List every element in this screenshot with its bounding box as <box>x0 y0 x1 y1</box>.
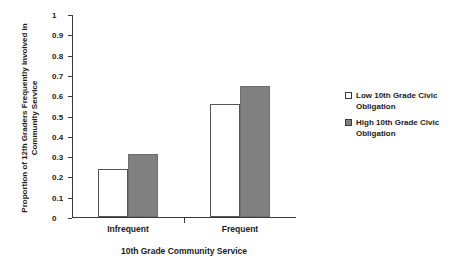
y-tick <box>68 56 72 57</box>
bar-infrequent-low <box>98 169 128 217</box>
y-tick <box>68 198 72 199</box>
y-tick <box>68 218 72 219</box>
y-tick-label: 0.1 <box>52 193 62 202</box>
filled-square-icon <box>345 119 352 126</box>
x-tick-label-frequent: Frequent <box>222 224 258 234</box>
bar-infrequent-high <box>128 154 158 217</box>
legend-label-low: Low 10th Grade Civic Obligation <box>356 91 437 112</box>
y-tick-label: 0.4 <box>52 132 62 141</box>
bar-chart: Proportion of 12th Graders Frequently In… <box>0 0 467 269</box>
y-tick <box>68 35 72 36</box>
y-tick <box>68 96 72 97</box>
legend-label-low-line1: Low 10th Grade Civic <box>356 91 437 100</box>
legend-item-high: High 10th Grade Civic Obligation <box>345 118 465 139</box>
y-tick <box>68 117 72 118</box>
x-tick-label-infrequent: Infrequent <box>107 224 149 234</box>
y-tick-label: 0.3 <box>52 153 62 162</box>
y-tick-label: 0.9 <box>52 31 62 40</box>
legend: Low 10th Grade Civic Obligation High 10t… <box>345 91 465 145</box>
x-group-separator-tick <box>184 218 185 223</box>
legend-label-high-line1: High 10th Grade Civic <box>356 118 439 127</box>
legend-label-low-line2: Obligation <box>356 102 396 111</box>
y-axis-title: Proportion of 12th Graders Frequently In… <box>20 18 50 218</box>
y-tick-label: 1 <box>52 11 62 20</box>
legend-label-high-line2: Obligation <box>356 129 396 138</box>
y-tick-label: 0.8 <box>52 51 62 60</box>
x-axis-title: 10th Grade Community Service <box>72 246 296 256</box>
y-axis-title-line1: Proportion of 12th Graders Frequently <box>20 67 29 212</box>
bar-frequent-low <box>210 104 240 217</box>
legend-label-high: High 10th Grade Civic Obligation <box>356 118 439 139</box>
legend-item-low: Low 10th Grade Civic Obligation <box>345 91 465 112</box>
y-tick-label: 0.2 <box>52 173 62 182</box>
y-tick <box>68 157 72 158</box>
y-tick <box>68 177 72 178</box>
bar-frequent-high <box>240 86 270 217</box>
y-axis-line <box>72 15 73 218</box>
y-tick <box>68 76 72 77</box>
hollow-square-icon <box>345 92 352 99</box>
y-tick-label: 0.7 <box>52 71 62 80</box>
y-tick-label: 0.5 <box>52 112 62 121</box>
y-tick <box>68 137 72 138</box>
y-tick-label: 0.6 <box>52 92 62 101</box>
y-tick-label: 0 <box>52 214 62 223</box>
plot-area: 00.10.20.30.40.50.60.70.80.91 Infrequent… <box>72 15 296 218</box>
y-tick <box>68 15 72 16</box>
